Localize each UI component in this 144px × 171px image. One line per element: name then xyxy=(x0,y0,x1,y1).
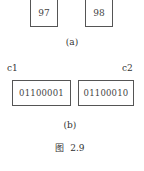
box-98: 98 xyxy=(85,0,113,27)
label-c2: c2 xyxy=(122,63,133,73)
figure-title: 图 2.9 xyxy=(40,141,100,154)
box-bits: 01100010 xyxy=(84,88,129,98)
box-value: 97 xyxy=(38,8,49,18)
box-value: 98 xyxy=(93,8,104,18)
box-c2: 01100010 xyxy=(78,80,134,106)
box-bits: 01100001 xyxy=(19,88,64,98)
caption-a: (a) xyxy=(58,37,86,47)
box-c1: 01100001 xyxy=(12,80,71,106)
caption-b: (b) xyxy=(55,120,85,130)
label-c1: c1 xyxy=(7,63,18,73)
box-97: 97 xyxy=(30,0,58,27)
